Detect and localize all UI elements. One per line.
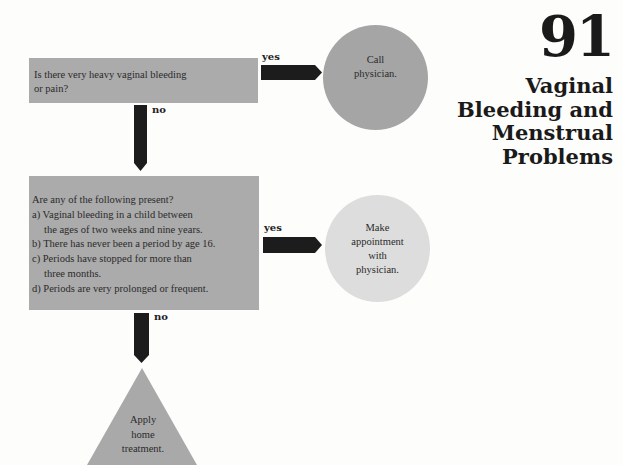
question-2-item-a: a) Vaginal bleeding in a child between — [32, 208, 215, 223]
no-arrow-1-icon — [134, 105, 147, 171]
outcome-2-line: physician. — [351, 263, 404, 277]
outcome-2-line: with — [351, 249, 404, 263]
outcome-1-text: Call physician. — [354, 53, 397, 81]
outcome-3-text: Apply home treatment. — [107, 413, 179, 457]
question-2-item-b: b) There has never been a period by age … — [32, 237, 215, 252]
question-2-item-c-cont: three months. — [32, 267, 215, 282]
call-physician-circle: Call physician. — [323, 25, 428, 130]
question-2-item-d: d) Periods are very prolonged or frequen… — [32, 282, 215, 297]
title-line: Vaginal — [457, 74, 613, 98]
page-title: Vaginal Bleeding and Menstrual Problems — [457, 74, 613, 168]
question-2-item-a-cont: the ages of two weeks and nine years. — [32, 223, 215, 238]
outcome-3-line: Apply — [107, 413, 179, 428]
question-1-line: Is there very heavy vaginal bleeding — [34, 68, 186, 82]
yes-arrow-2-icon — [263, 237, 323, 253]
outcome-1-line: physician. — [354, 67, 397, 81]
question-2-text: Are any of the following present? a) Vag… — [32, 193, 215, 297]
title-line: Menstrual — [457, 121, 613, 145]
yes-arrow-1-icon — [261, 65, 323, 80]
question-2-intro: Are any of the following present? — [32, 193, 215, 208]
question-1-line: or pain? — [34, 82, 186, 96]
outcome-1-line: Call — [354, 53, 397, 67]
chapter-number: 91 — [539, 4, 613, 68]
no-arrow-2-icon — [134, 313, 149, 363]
question-1-box: Is there very heavy vaginal bleeding or … — [29, 58, 258, 103]
title-line: Problems — [457, 145, 613, 169]
make-appointment-circle: Make appointment with physician. — [325, 195, 430, 302]
title-line: Bleeding and — [457, 98, 613, 122]
no-label-2: no — [154, 311, 168, 322]
outcome-2-line: Make — [351, 221, 404, 235]
question-2-item-c: c) Periods have stopped for more than — [32, 252, 215, 267]
outcome-3-line: treatment. — [107, 442, 179, 457]
yes-label-2: yes — [264, 222, 282, 233]
outcome-2-text: Make appointment with physician. — [351, 221, 404, 277]
no-label-1: no — [152, 104, 166, 115]
outcome-3-line: home — [107, 428, 179, 443]
outcome-2-line: appointment — [351, 235, 404, 249]
yes-label-1: yes — [262, 51, 280, 62]
question-2-box: Are any of the following present? a) Vag… — [29, 176, 259, 310]
question-1-text: Is there very heavy vaginal bleeding or … — [34, 68, 186, 96]
